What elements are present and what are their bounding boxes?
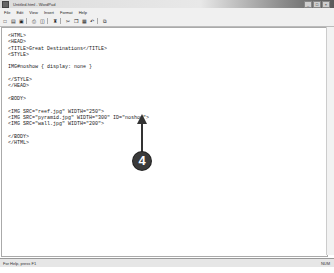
menu-edit[interactable]: Edit — [16, 10, 23, 15]
menu-view[interactable]: View — [29, 10, 38, 15]
toolbar-separator — [97, 18, 98, 24]
callout-step-badge: 4 — [133, 152, 151, 170]
menu-help[interactable]: Help — [79, 10, 87, 15]
menu-bar: File Edit View Insert Format Help — [0, 8, 334, 16]
vertical-scrollbar[interactable] — [326, 27, 334, 255]
document-editor[interactable]: <HTML><HEAD><TITLE>Great Destinations</T… — [1, 27, 328, 257]
window-title: Untitled.html - WordPad — [13, 2, 55, 7]
code-line: </HTML> — [8, 140, 149, 146]
window-controls: _ □ × — [304, 1, 330, 8]
maximize-button[interactable]: □ — [313, 1, 321, 8]
title-bar: Untitled.html - WordPad _ □ × — [0, 0, 334, 8]
menu-file[interactable]: File — [4, 10, 10, 15]
find-icon[interactable]: ♜ — [52, 18, 58, 24]
open-icon[interactable]: ▤ — [10, 18, 16, 24]
status-num-lock: NUM — [321, 261, 330, 266]
minimize-button[interactable]: _ — [304, 1, 312, 8]
toolbar-separator — [47, 18, 48, 24]
document-text[interactable]: <HTML><HEAD><TITLE>Great Destinations</T… — [8, 33, 149, 146]
toolbar: □ ▤ ▣ ⎙ ◫ ♜ ✂ ❐ ▦ ↶ ⧉ — [0, 16, 334, 27]
wordpad-app-icon[interactable] — [2, 1, 9, 8]
window-bottom-edge — [0, 267, 334, 273]
toolbar-separator — [26, 18, 27, 24]
copy-icon[interactable]: ❐ — [73, 18, 79, 24]
print-icon[interactable]: ⎙ — [31, 18, 37, 24]
insert-datetime-icon[interactable]: ⧉ — [102, 18, 108, 24]
cut-icon[interactable]: ✂ — [65, 18, 71, 24]
toolbar-separator — [60, 18, 61, 24]
menu-insert[interactable]: Insert — [44, 10, 54, 15]
status-help-text: For Help, press F1 — [3, 261, 36, 266]
new-icon[interactable]: □ — [2, 18, 8, 24]
print-preview-icon[interactable]: ◫ — [39, 18, 45, 24]
wordpad-window: Untitled.html - WordPad _ □ × File Edit … — [0, 0, 334, 273]
undo-icon[interactable]: ↶ — [89, 18, 95, 24]
close-button[interactable]: × — [322, 1, 330, 8]
paste-icon[interactable]: ▦ — [81, 18, 87, 24]
menu-format[interactable]: Format — [60, 10, 73, 15]
save-icon[interactable]: ▣ — [18, 18, 24, 24]
